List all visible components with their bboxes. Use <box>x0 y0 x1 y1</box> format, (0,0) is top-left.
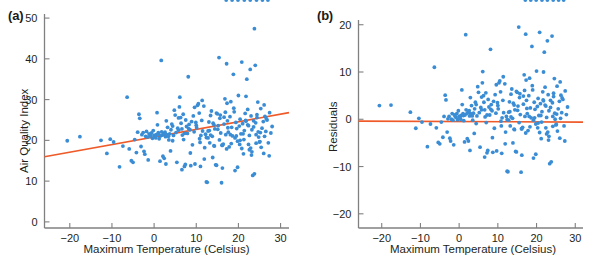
data-point <box>498 79 502 83</box>
data-point <box>557 0 561 2</box>
data-point <box>563 89 567 93</box>
data-point <box>220 181 224 185</box>
data-point <box>558 80 562 84</box>
x-tick-label: 0 <box>456 232 462 244</box>
data-point <box>254 121 258 125</box>
data-point <box>532 156 536 160</box>
data-point <box>559 116 563 120</box>
data-point <box>143 152 147 156</box>
data-point <box>198 137 202 141</box>
data-point <box>238 117 242 121</box>
data-point <box>191 143 195 147</box>
data-point <box>218 138 222 142</box>
data-point <box>566 105 570 109</box>
data-point <box>197 111 201 115</box>
data-point <box>530 84 534 88</box>
data-point <box>517 121 521 125</box>
data-point <box>196 102 200 106</box>
data-point <box>258 140 262 144</box>
data-point <box>252 125 256 129</box>
data-point <box>248 0 252 2</box>
data-point <box>125 95 129 99</box>
data-point <box>206 129 210 133</box>
data-point <box>522 73 526 77</box>
data-point <box>229 100 233 104</box>
data-point <box>242 129 246 133</box>
data-point <box>232 106 236 110</box>
data-point <box>257 135 261 139</box>
data-point <box>212 123 216 127</box>
data-point <box>171 124 175 128</box>
data-point <box>245 77 249 81</box>
data-point <box>545 0 549 2</box>
data-point <box>99 138 103 142</box>
data-point <box>542 70 546 74</box>
data-point <box>127 147 131 151</box>
data-point <box>226 126 230 130</box>
data-point <box>259 107 263 111</box>
data-point <box>463 140 467 144</box>
data-point <box>178 95 182 99</box>
data-point <box>504 130 508 134</box>
data-point <box>499 90 503 94</box>
y-tick-label: 0 <box>345 113 351 125</box>
data-point <box>481 70 485 74</box>
data-point <box>181 112 185 116</box>
data-point <box>564 113 568 117</box>
data-point <box>501 98 505 102</box>
data-point <box>242 152 246 156</box>
data-point <box>521 94 525 98</box>
data-point <box>175 160 179 164</box>
data-point <box>216 127 220 131</box>
data-point <box>426 145 430 149</box>
data-point <box>268 111 272 115</box>
data-point <box>219 131 223 135</box>
data-point <box>496 107 500 111</box>
data-point <box>146 158 150 162</box>
data-point <box>441 135 445 139</box>
data-point <box>237 124 241 128</box>
data-point <box>550 34 554 38</box>
data-point <box>474 103 478 107</box>
data-point <box>222 115 226 119</box>
data-point <box>534 0 538 2</box>
data-point <box>215 111 219 115</box>
data-point <box>492 99 496 103</box>
x-tick-label: 30 <box>569 232 581 244</box>
data-point <box>203 146 207 150</box>
data-point <box>532 100 536 104</box>
data-point <box>420 120 424 124</box>
panel-a: (a) Air Quality Index Maximum Temperatur… <box>0 0 295 263</box>
data-point <box>136 130 140 134</box>
data-point <box>250 153 254 157</box>
data-point <box>166 125 170 129</box>
data-point <box>263 134 267 138</box>
data-point <box>472 111 476 115</box>
data-point <box>547 109 551 113</box>
data-point <box>208 141 212 145</box>
data-point <box>267 154 271 158</box>
data-point <box>508 100 512 104</box>
data-point <box>539 102 543 106</box>
data-point <box>237 94 241 98</box>
data-point <box>229 142 233 146</box>
x-tick-label: 10 <box>492 232 504 244</box>
data-point <box>215 163 219 167</box>
data-point <box>528 76 532 80</box>
data-point <box>230 0 234 2</box>
data-point <box>560 96 564 100</box>
data-point <box>460 103 464 107</box>
data-point <box>238 143 242 147</box>
data-point <box>169 149 173 153</box>
data-point <box>262 103 266 107</box>
data-point <box>200 99 204 103</box>
data-point <box>483 155 487 159</box>
data-point <box>443 93 447 97</box>
data-point <box>243 112 247 116</box>
data-point <box>261 120 265 124</box>
data-point <box>475 114 479 118</box>
data-point <box>253 172 257 176</box>
data-point <box>507 110 511 114</box>
data-point <box>212 144 216 148</box>
data-point <box>525 107 529 111</box>
